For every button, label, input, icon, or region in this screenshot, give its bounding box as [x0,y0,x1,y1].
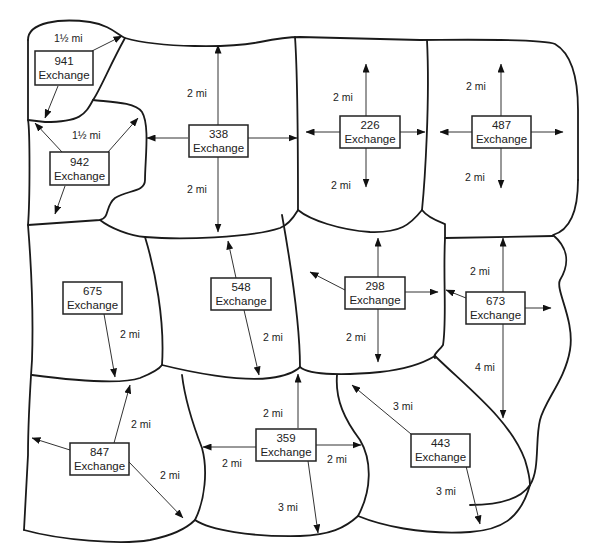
exchange-label: Exchange [67,299,118,311]
exchange-number: 443 [431,437,450,449]
exchange-443: 443 Exchange [411,434,470,467]
exchange-label: Exchange [74,460,125,472]
distance-label: 2 mi [470,265,490,277]
distance-label: 2 mi [466,80,486,92]
boundary-left [24,40,33,530]
distance-label: 2 mi [333,91,353,103]
exchange-label: Exchange [349,294,400,306]
distance-label: 1½ mi [54,32,83,44]
exchange-number: 359 [276,432,295,444]
exchange-map: 941 Exchange 942 Exchange 338 Exchange 2… [0,0,592,560]
exchange-number: 941 [54,55,73,67]
boundary-548-298 [282,215,300,367]
distance-label: 2 mi [187,183,207,195]
exchange-label: Exchange [476,133,527,145]
exchange-number: 673 [486,295,505,307]
distance-label: 2 mi [331,179,351,191]
exchange-number: 338 [209,128,228,140]
distance-label: 2 mi [327,453,347,465]
distance-label: 2 mi [120,328,140,340]
exchange-675: 675 Exchange [63,282,122,314]
boundary-298-bottom [300,356,435,374]
exchange-label: Exchange [470,309,521,321]
boundary-675-548 [145,237,163,365]
distance-label: 2 mi [263,407,283,419]
distance-label: 2 mi [187,87,207,99]
boundary-675-bottom [32,365,162,381]
distance-label: 2 mi [131,418,151,430]
exchange-298: 298 Exchange [345,277,405,309]
exchange-number: 675 [83,285,102,297]
distance-label: 4 mi [475,361,495,373]
boundary-847-359 [182,375,205,520]
boundary-338-226 [295,37,298,210]
boundary-487-bottom [422,210,553,238]
distance-label: 2 mi [346,331,366,343]
exchange-label: Exchange [415,451,466,463]
boundary-298-673 [434,238,445,358]
exchange-number: 226 [360,119,379,131]
exchange-number: 847 [90,446,109,458]
exchange-548: 548 Exchange [211,278,271,310]
exchange-941: 941 Exchange [35,51,93,85]
exchange-487: 487 Exchange [472,116,531,148]
boundary-226-bottom [298,210,422,232]
distance-label: 2 mi [160,469,180,481]
exchange-359: 359 Exchange [256,429,316,461]
exchange-673: 673 Exchange [466,292,525,324]
exchange-label: Exchange [193,142,244,154]
exchange-847: 847 Exchange [70,443,129,475]
distance-label: 2 mi [465,171,485,183]
distance-label: 2 mi [222,457,242,469]
exchange-226: 226 Exchange [340,116,400,148]
boundary-top [28,21,578,180]
boundary-226-487 [422,40,428,210]
exchange-number: 487 [492,119,511,131]
exchange-number: 298 [365,280,384,292]
exchange-label: Exchange [38,69,89,81]
distance-label: 3 mi [436,485,456,497]
exchange-338: 338 Exchange [189,125,248,157]
boundary-338-bottom [100,210,298,238]
distance-label: 3 mi [278,501,298,513]
exchange-942: 942 Exchange [50,152,109,185]
exchange-number: 548 [231,281,250,293]
exchange-label: Exchange [344,133,395,145]
exchange-label: Exchange [215,295,266,307]
exchange-label: Exchange [260,446,311,458]
distance-label: 1½ mi [72,129,101,141]
distance-label: 2 mi [263,331,283,343]
exchange-label: Exchange [54,170,105,182]
exchange-number: 942 [70,156,89,168]
distance-label: 3 mi [393,400,413,412]
